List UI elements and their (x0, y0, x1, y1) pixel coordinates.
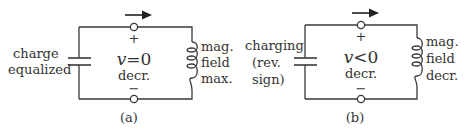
bottom-terminal-icon (357, 95, 364, 102)
voltage-trend: decr. (345, 66, 377, 81)
capacitor-label-line-1: charge (13, 46, 59, 61)
panel-b: + − charging (rev. sign) v<0 decr. mag. … (245, 9, 459, 126)
inductor-label-line-2: field (426, 51, 455, 66)
panel-a: + − charge equalized v=0 decr. mag. fiel… (8, 11, 234, 126)
inductor-icon (187, 42, 197, 90)
caption-a: (a) (120, 110, 138, 125)
lc-circuit-figure: + − charge equalized v=0 decr. mag. fiel… (0, 0, 469, 132)
bottom-terminal-sign: − (356, 81, 367, 96)
inductor-label-line-3: decr. (426, 68, 458, 83)
capacitor-label-line-2: equalized (8, 62, 71, 77)
top-terminal-icon (357, 21, 364, 28)
inductor-label-line-3: max. (201, 71, 233, 86)
capacitor-label-line-3: sign) (252, 72, 285, 87)
caption-b: (b) (346, 110, 364, 125)
voltage-expression: v=0 (117, 49, 152, 69)
current-arrow-icon (352, 9, 379, 18)
inductor-label-line-1: mag. (201, 39, 234, 54)
top-terminal-sign: + (129, 31, 140, 46)
inductor-label-line-2: field (201, 55, 230, 70)
current-arrow-icon (125, 11, 152, 20)
voltage-expression: v<0 (344, 47, 379, 67)
capacitor-label-line-2: (rev. (252, 55, 281, 70)
top-terminal-icon (130, 23, 137, 30)
inductor-label-line-1: mag. (426, 34, 459, 49)
capacitor-label-line-1: charging (245, 38, 304, 53)
top-terminal-sign: + (356, 29, 367, 44)
capacitor-icon (294, 58, 317, 65)
bottom-terminal-icon (130, 95, 137, 102)
voltage-trend: decr. (118, 68, 150, 83)
bottom-terminal-sign: − (129, 81, 140, 96)
capacitor-icon (68, 58, 91, 65)
inductor-icon (412, 38, 422, 87)
